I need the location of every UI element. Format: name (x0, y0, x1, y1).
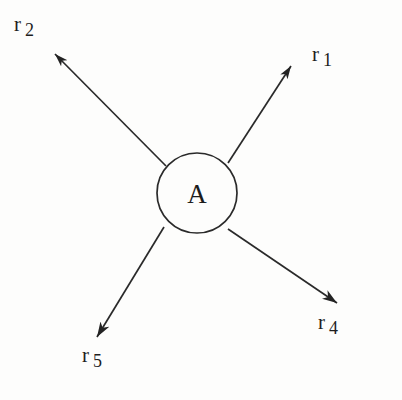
vector-arrow-r5 (97, 227, 164, 337)
vector-label-r4-subscript: 4 (329, 318, 338, 338)
vector-label-r2: r2 (14, 14, 30, 35)
vector-label-r2-subscript: 2 (25, 20, 34, 40)
vector-label-r1-base: r (312, 42, 319, 66)
vector-label-r5-base: r (82, 343, 89, 367)
vector-arrow-r1 (228, 66, 291, 163)
vector-arrow-r2 (55, 54, 166, 166)
vector-label-r1: r1 (312, 44, 328, 65)
node-label-a: A (187, 179, 207, 209)
vector-label-r1-subscript: 1 (323, 50, 332, 70)
vector-arrow-r4 (228, 229, 337, 303)
vector-label-r2-base: r (14, 12, 21, 36)
vector-diagram: A (0, 0, 402, 400)
vector-label-r4-base: r (318, 310, 325, 334)
vector-label-r5-subscript: 5 (93, 351, 102, 371)
vector-label-r5: r5 (82, 345, 98, 366)
vector-label-r4: r4 (318, 312, 334, 333)
diagram-canvas: A r2 r1 r4 r5 (0, 0, 402, 400)
